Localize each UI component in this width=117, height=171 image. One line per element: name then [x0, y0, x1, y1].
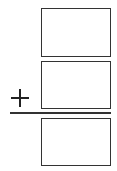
plus-vertical-stroke [19, 89, 21, 107]
addend-bottom-box[interactable] [41, 61, 111, 109]
plus-icon [11, 89, 29, 107]
addend-top-box[interactable] [41, 8, 111, 57]
sum-line [10, 112, 111, 114]
sum-box[interactable] [41, 118, 111, 166]
